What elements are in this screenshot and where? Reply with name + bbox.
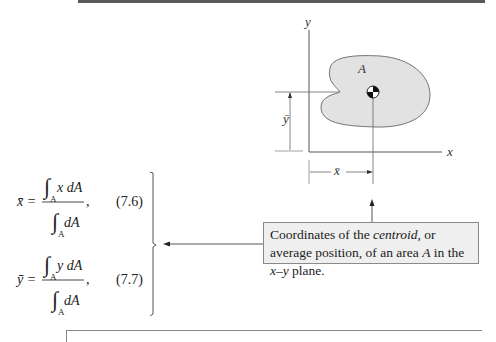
brace [150,172,156,316]
eq1-numerator: x dA [57,180,82,196]
area-label: A [358,61,366,77]
eq2-sub-den: A [58,307,65,317]
eq1-lhs: x̄ = [17,194,36,210]
x-axis-label: x [447,144,453,160]
arrowhead-up-icon [370,199,375,206]
eq1-denominator: dA [64,215,80,231]
eq2-sub-num: A [50,272,57,282]
arrowhead-icon [288,92,292,98]
eq2-numerator: y dA [57,258,82,274]
eq2-number: (7.7) [116,272,143,288]
xbar-label: x̄ [334,163,340,179]
caption-emph-centroid: centroid [373,227,418,242]
eq2-denominator: dA [64,293,80,309]
caption-box: Coordinates of the centroid, or average … [263,222,479,264]
arrowhead-left-icon [163,242,170,247]
ybar-label: ȳ [283,111,289,127]
centroid-figure [0,0,496,342]
eq1-number: (7.6) [116,194,143,210]
y-axis-label: y [305,14,311,30]
footer-rule-edge [66,330,67,342]
eq1-sub-num: A [50,194,57,204]
arrowhead-icon [367,170,373,174]
eq1-sub-den: A [58,229,65,239]
footer-rule [66,330,482,331]
eq2-lhs: ȳ = [17,272,36,288]
